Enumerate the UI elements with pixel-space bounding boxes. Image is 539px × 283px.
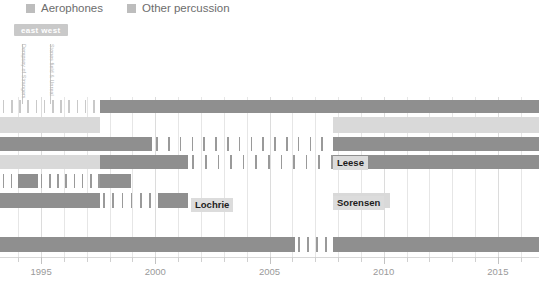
bar-tick: [168, 137, 170, 151]
bar-tick: [298, 137, 300, 151]
axis-label: 2015: [487, 266, 508, 277]
bar-tick: [77, 100, 79, 113]
axis-tick-minor: [18, 257, 19, 262]
bar-tick: [218, 155, 220, 169]
bar-segment: [0, 237, 203, 252]
bar-tick: [3, 174, 5, 188]
axis-label: 2010: [373, 266, 394, 277]
bar-tick: [230, 155, 232, 169]
axis-tick-minor: [429, 257, 430, 262]
legend-item-0[interactable]: Aerophones: [26, 2, 103, 14]
axis-tick-minor: [475, 257, 476, 262]
axis-tick-major: [155, 257, 156, 264]
bar-tick: [112, 193, 114, 208]
axis-tick-major: [41, 257, 42, 264]
bar-segment: [203, 237, 295, 252]
bar-tick: [90, 174, 92, 188]
axis-tick-minor: [338, 257, 339, 262]
bar-tick: [306, 155, 308, 169]
axis-tick-minor: [110, 257, 111, 262]
chart-legend: Aerophones Other percussion: [0, 0, 539, 20]
plot-area: [0, 97, 539, 257]
bar-tick: [44, 100, 46, 113]
bar-tick: [57, 174, 59, 188]
bar-tick: [205, 155, 207, 169]
bar-tick: [82, 174, 84, 188]
axis-tick-major: [270, 257, 271, 264]
bar-tick: [36, 100, 38, 113]
bar-tick: [52, 100, 54, 113]
bar-tick: [310, 137, 312, 151]
bar-tick: [11, 100, 13, 113]
axis-tick-minor: [315, 257, 316, 262]
axis-tick-major: [498, 257, 499, 264]
axis-tick-minor: [292, 257, 293, 262]
bar-tick: [316, 237, 318, 252]
bar-segment: [0, 137, 152, 151]
bar-tick: [281, 155, 283, 169]
chart-row: [0, 100, 539, 113]
name-label-leese[interactable]: Leese: [333, 156, 368, 170]
bar-tick: [131, 193, 133, 208]
bar-segment: [100, 174, 131, 188]
chart-row: [0, 137, 539, 151]
bar-tick: [255, 155, 257, 169]
chart-root: Aerophones Other percussion east west De…: [0, 0, 539, 283]
x-axis: 19952000200520102015: [0, 257, 539, 283]
bar-tick: [180, 137, 182, 151]
bar-tick: [262, 137, 264, 151]
legend-label: Other percussion: [142, 2, 230, 14]
legend-item-1[interactable]: Other percussion: [127, 2, 230, 14]
name-label-sorensen[interactable]: Sorensen: [333, 196, 384, 210]
axis-tick-minor: [452, 257, 453, 262]
bar-tick: [274, 137, 276, 151]
bar-segment: [0, 117, 100, 133]
chart-row: [0, 174, 539, 188]
bar-tick: [19, 100, 21, 113]
bar-segment: [333, 137, 539, 151]
bar-tick: [192, 155, 194, 169]
axis-tick-minor: [361, 257, 362, 262]
bar-tick: [27, 100, 29, 113]
bar-tick: [65, 174, 67, 188]
chart-row: [0, 193, 539, 208]
bar-segment: [333, 100, 539, 113]
bar-segment: [333, 237, 539, 252]
bar-tick: [243, 155, 245, 169]
axis-label: 2005: [259, 266, 280, 277]
bar-segment: [333, 117, 539, 133]
bar-segment: [0, 155, 100, 169]
bar-tick: [239, 137, 241, 151]
bar-tick: [41, 174, 43, 188]
bar-tick: [3, 100, 5, 113]
legend-swatch-icon: [127, 4, 136, 13]
bar-tick: [192, 137, 194, 151]
bar-tick: [203, 137, 205, 151]
axis-tick-minor: [178, 257, 179, 262]
axis-tick-minor: [521, 257, 522, 262]
bar-tick: [321, 137, 323, 151]
east-west-badge: east west: [14, 24, 68, 36]
bar-tick: [140, 193, 142, 208]
bar-tick: [93, 100, 95, 113]
bar-segment: [18, 174, 38, 188]
axis-tick-minor: [407, 257, 408, 262]
legend-label: Aerophones: [41, 2, 103, 14]
axis-tick-major: [384, 257, 385, 264]
chart-row: [0, 155, 539, 169]
name-label-lochrie[interactable]: Lochrie: [191, 198, 233, 212]
bar-tick: [60, 100, 62, 113]
bar-tick: [298, 237, 300, 252]
chart-row: [0, 237, 539, 252]
bar-tick: [156, 137, 158, 151]
bar-tick: [293, 155, 295, 169]
bar-segment: [100, 155, 188, 169]
bar-tick: [318, 155, 320, 169]
bar-tick: [68, 100, 70, 113]
bar-tick: [49, 174, 51, 188]
bar-tick: [286, 137, 288, 151]
axis-tick-minor: [224, 257, 225, 262]
bar-tick: [268, 155, 270, 169]
annotation-label-1: Stones field & Unreal: [49, 44, 55, 96]
legend-swatch-icon: [26, 4, 35, 13]
